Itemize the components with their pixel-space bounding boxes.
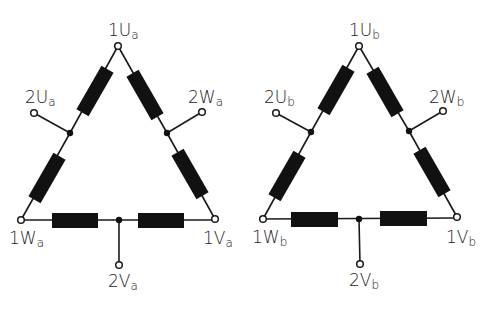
junction-dot-bottom-b (356, 216, 362, 222)
junction-dot-left-a (67, 130, 73, 136)
winding-coil-bottom-right-b (380, 211, 427, 226)
terminal-1u-a (115, 43, 122, 50)
junction-dot-left-b (308, 129, 314, 135)
label-1u-a: 1Ua (108, 20, 139, 42)
terminal-2w-a (199, 109, 206, 116)
delta-winding-b: 1Ub 2Ub 2Wb 1Wb 1Vb 2Vb (252, 20, 476, 292)
winding-coil-right-lower-a (171, 149, 208, 199)
label-1w-b: 1Wb (252, 227, 287, 249)
junction-dot-bottom-a (116, 217, 122, 223)
label-2u-b: 2Ub (264, 87, 295, 109)
tap-wire-2u-b (276, 113, 311, 132)
label-2w-a: 2Wa (188, 87, 223, 109)
winding-coil-left-lower-a (28, 153, 65, 203)
terminal-2w-b (440, 108, 447, 115)
terminal-1u-b (356, 43, 363, 50)
junction-dot-right-a (164, 130, 170, 136)
delta-winding-diagram: 1Ua 2Ua 2Wa 1Wa 1Va 2Va 1Ub 2Ub 2Wb (0, 0, 483, 312)
label-1v-b: 1Vb (446, 227, 476, 249)
delta-winding-a: 1Ua 2Ua 2Wa 1Wa 1Va 2Va (9, 20, 233, 293)
tap-wire-2u-a (34, 113, 70, 133)
terminal-1v-b (454, 214, 461, 221)
tap-wire-2w-a (167, 112, 202, 133)
terminal-2u-a (31, 110, 38, 117)
tap-wire-2v-b (359, 219, 360, 264)
winding-coil-bottom-left-a (52, 213, 98, 228)
junction-dot-right-b (406, 128, 412, 134)
winding-coil-bottom-right-a (138, 213, 184, 228)
winding-coil-right-upper-a (126, 70, 163, 120)
winding-coil-right-upper-b (366, 67, 403, 117)
winding-coil-right-lower-b (413, 147, 450, 197)
winding-coil-bottom-left-b (291, 212, 338, 227)
tap-wire-2w-b (409, 111, 443, 131)
winding-coil-left-upper-b (317, 65, 354, 115)
label-1v-a: 1Va (203, 228, 233, 250)
terminal-1v-a (212, 216, 219, 223)
label-2v-b: 2Vb (349, 270, 379, 292)
label-2v-a: 2Va (108, 271, 138, 293)
label-2u-a: 2Ua (25, 87, 56, 109)
winding-coil-left-upper-a (76, 66, 113, 116)
terminal-2u-b (273, 110, 280, 117)
terminal-2v-b (357, 261, 364, 268)
terminal-2v-a (116, 262, 123, 269)
label-1w-a: 1Wa (9, 228, 44, 250)
terminal-1w-b (260, 216, 267, 223)
terminal-1w-a (18, 217, 25, 224)
label-1u-b: 1Ub (349, 20, 380, 42)
winding-coil-left-lower-b (268, 151, 305, 201)
label-2w-b: 2Wb (429, 87, 464, 109)
